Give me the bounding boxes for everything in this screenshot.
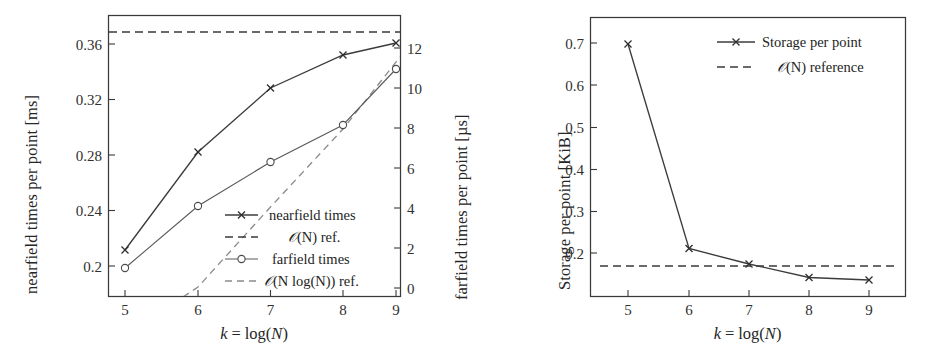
y-ticklabel-primary-4: 0.36 bbox=[76, 37, 103, 53]
series-farfield-times-line bbox=[125, 69, 396, 268]
figure-two-panel-scaling-plots: nearfield times per point [ms] farfield … bbox=[0, 0, 949, 363]
right-panel-y-ticks bbox=[591, 43, 598, 253]
left-panel-x-ticks bbox=[125, 290, 396, 297]
left-panel-legend: nearfield times 𝒪(N) ref. farfield times bbox=[225, 207, 359, 290]
right-x-ticklabel-0: 5 bbox=[624, 302, 632, 318]
y-ticklabel-secondary-5: 10 bbox=[407, 81, 422, 97]
right-y-ticklabel-0: 0.2 bbox=[565, 246, 584, 262]
y-ticklabel-secondary-6: 12 bbox=[407, 41, 422, 57]
x-ticklabel-2: 7 bbox=[267, 302, 275, 318]
y-ticklabel-secondary-4: 8 bbox=[407, 121, 415, 137]
right-x-ticklabel-1: 6 bbox=[685, 302, 693, 318]
y-ticklabel-secondary-1: 2 bbox=[407, 241, 415, 257]
left-panel-y-ticklabels-secondary: 0 2 4 6 8 10 12 bbox=[407, 41, 422, 297]
right-y-ticklabel-3: 0.5 bbox=[565, 120, 584, 136]
right-x-ticklabel-3: 8 bbox=[805, 302, 813, 318]
legend-item-storage-per-point: Storage per point bbox=[717, 34, 862, 50]
legend-label-onlogn-reference-body: (N log(N)) ref. bbox=[273, 273, 359, 290]
legend-item-on-reference: 𝒪(N) ref. bbox=[225, 229, 340, 246]
left-panel-y-ticks-primary bbox=[109, 44, 116, 266]
y-ticklabel-primary-0: 0.2 bbox=[83, 259, 102, 275]
right-y-ticklabel-2: 0.4 bbox=[565, 162, 584, 178]
left-panel-y-ticklabels-primary: 0.2 0.24 0.28 0.32 0.36 bbox=[76, 37, 103, 275]
legend-label-on-reference-body: (N) ref. bbox=[297, 229, 340, 246]
right-panel-y-ticklabels: 0.2 0.3 0.4 0.5 0.6 0.7 bbox=[565, 36, 584, 262]
legend-label-storage-on-reference: 𝒪(N) reference bbox=[777, 59, 864, 76]
right-y-ticklabel-4: 0.6 bbox=[565, 78, 584, 94]
right-y-ticklabel-5: 0.7 bbox=[565, 36, 584, 52]
series-storage-per-point-line bbox=[628, 44, 869, 280]
legend-label-farfield-times: farfield times bbox=[272, 251, 350, 267]
left-panel-axes-frame bbox=[109, 16, 401, 297]
timings-panel: nearfield times per point [ms] farfield … bbox=[0, 0, 475, 363]
right-panel-x-ticks bbox=[628, 290, 869, 297]
y-ticklabel-secondary-2: 4 bbox=[407, 201, 415, 217]
legend-label-nearfield-times: nearfield times bbox=[269, 207, 356, 223]
y-ticklabel-primary-1: 0.24 bbox=[76, 203, 103, 219]
right-panel-x-ticklabels: 5 6 7 8 9 bbox=[624, 302, 873, 318]
y-ticklabel-primary-3: 0.32 bbox=[76, 92, 102, 108]
legend-label-storage-per-point: Storage per point bbox=[762, 34, 862, 50]
legend-label-onlogn-reference: 𝒪(N log(N)) ref. bbox=[264, 273, 359, 290]
right-x-ticklabel-2: 7 bbox=[745, 302, 753, 318]
series-storage-per-point-markers bbox=[625, 41, 873, 284]
y-ticklabel-secondary-3: 6 bbox=[407, 161, 415, 177]
legend-item-nearfield-times: nearfield times bbox=[225, 207, 356, 223]
x-ticklabel-1: 6 bbox=[194, 302, 202, 318]
legend-label-on-reference: 𝒪(N) ref. bbox=[288, 229, 340, 246]
right-panel-canvas: 0.2 0.3 0.4 0.5 0.6 0.7 5 6 7 8 9 bbox=[475, 0, 949, 363]
x-ticklabel-0: 5 bbox=[121, 302, 129, 318]
x-ticklabel-4: 9 bbox=[392, 302, 400, 318]
series-nearfield-times-markers bbox=[122, 40, 400, 254]
x-ticklabel-3: 8 bbox=[339, 302, 347, 318]
legend-label-storage-on-reference-body: (N) reference bbox=[786, 59, 864, 76]
left-panel-canvas: 0.2 0.24 0.28 0.32 0.36 0 2 4 6 bbox=[0, 0, 475, 363]
legend-item-onlogn-reference: 𝒪(N log(N)) ref. bbox=[225, 273, 359, 290]
y-ticklabel-primary-2: 0.28 bbox=[76, 148, 102, 164]
right-x-ticklabel-4: 9 bbox=[865, 302, 873, 318]
legend-item-farfield-times: farfield times bbox=[225, 251, 350, 267]
right-y-ticklabel-1: 0.3 bbox=[565, 204, 584, 220]
legend-marker-circle-icon bbox=[238, 255, 245, 262]
y-ticklabel-secondary-0: 0 bbox=[407, 281, 415, 297]
storage-panel: Storage per point [KiB] k=log(N) 0.2 0.3… bbox=[475, 0, 949, 363]
left-panel-x-ticklabels: 5 6 7 8 9 bbox=[121, 302, 400, 318]
left-panel-y-ticks-secondary bbox=[394, 48, 401, 288]
right-panel-legend: Storage per point 𝒪(N) reference bbox=[717, 34, 864, 76]
legend-item-storage-on-reference: 𝒪(N) reference bbox=[717, 59, 864, 76]
